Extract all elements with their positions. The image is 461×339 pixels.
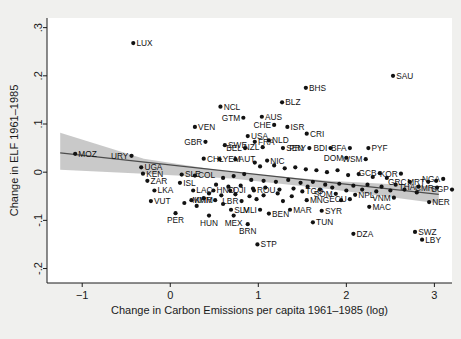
data-point bbox=[290, 194, 294, 198]
point-label: VUT bbox=[154, 196, 171, 206]
data-point bbox=[260, 115, 264, 119]
data-point bbox=[219, 193, 223, 197]
data-point bbox=[145, 179, 149, 183]
scatter-plot-figure: LUXSAUBHSBLZNCLAUSGTMCHEISRVENCRIUSANLDG… bbox=[0, 0, 461, 339]
data-point bbox=[178, 181, 182, 185]
point-label: SAU bbox=[396, 71, 413, 81]
point-label: LKA bbox=[158, 185, 174, 195]
data-point bbox=[211, 188, 215, 192]
data-points-group: LUXSAUBHSBLZNCLAUSGTMCHEISRVENCRIUSANLDG… bbox=[73, 38, 454, 249]
data-point bbox=[311, 220, 315, 224]
data-point bbox=[281, 199, 285, 203]
point-label: STP bbox=[261, 239, 278, 249]
point-label: MAC bbox=[372, 202, 390, 212]
data-point bbox=[272, 163, 276, 167]
data-point bbox=[286, 178, 290, 182]
point-label: ECU bbox=[329, 194, 347, 204]
data-point bbox=[365, 183, 369, 187]
point-label: ZAR bbox=[151, 176, 168, 186]
point-label: SYR bbox=[325, 206, 342, 216]
point-label: URY bbox=[111, 151, 129, 161]
data-point bbox=[191, 188, 195, 192]
point-label: NER bbox=[432, 197, 450, 207]
data-point bbox=[242, 172, 246, 176]
data-point bbox=[229, 208, 233, 212]
data-point bbox=[307, 146, 311, 150]
data-point bbox=[320, 209, 324, 213]
x-tick-label: 3 bbox=[431, 289, 437, 301]
point-label: WSM bbox=[342, 154, 362, 164]
data-point bbox=[239, 184, 243, 188]
x-tick-label: 0 bbox=[167, 289, 173, 301]
point-label: LUX bbox=[136, 38, 153, 48]
data-point bbox=[149, 199, 153, 203]
data-point bbox=[272, 123, 276, 127]
data-point bbox=[357, 172, 361, 176]
data-point bbox=[131, 41, 135, 45]
data-point bbox=[348, 197, 352, 201]
data-point bbox=[129, 154, 133, 158]
point-label: MOZ bbox=[78, 149, 96, 159]
data-point bbox=[314, 168, 318, 172]
data-point bbox=[276, 191, 280, 195]
point-label: CHE bbox=[253, 120, 271, 130]
data-point bbox=[394, 183, 398, 187]
data-point bbox=[392, 196, 396, 200]
point-label: ISR bbox=[291, 122, 305, 132]
data-point bbox=[305, 132, 309, 136]
point-label: THA bbox=[399, 182, 416, 192]
data-point bbox=[180, 172, 184, 176]
data-point bbox=[348, 146, 352, 150]
data-point bbox=[335, 168, 339, 172]
data-point bbox=[306, 185, 310, 189]
data-point bbox=[450, 187, 454, 191]
data-point bbox=[298, 181, 302, 185]
data-point bbox=[232, 174, 236, 178]
data-point bbox=[434, 179, 438, 183]
data-point bbox=[337, 182, 341, 186]
data-point bbox=[261, 193, 265, 197]
data-point bbox=[285, 125, 289, 129]
data-point bbox=[254, 197, 258, 201]
data-point bbox=[255, 242, 259, 246]
data-point bbox=[233, 157, 237, 161]
data-point bbox=[195, 204, 199, 208]
point-label: VEN bbox=[198, 122, 215, 132]
data-point bbox=[291, 186, 295, 190]
chart-screenshot: LUXSAUBHSBLZNCLAUSGTMCHEISRVENCRIUSANLDG… bbox=[0, 0, 461, 339]
data-point bbox=[141, 172, 145, 176]
data-point bbox=[441, 177, 445, 181]
data-point bbox=[374, 189, 378, 193]
data-point bbox=[207, 191, 211, 195]
point-label: DOM bbox=[324, 153, 343, 163]
data-point bbox=[203, 140, 207, 144]
data-point bbox=[402, 187, 406, 191]
data-point bbox=[366, 146, 370, 150]
point-label: PYF bbox=[372, 143, 388, 153]
point-label: TUN bbox=[316, 217, 333, 227]
data-point bbox=[139, 165, 143, 169]
data-point bbox=[217, 157, 221, 161]
point-label: NZL bbox=[244, 142, 260, 152]
y-tick-label: 0 bbox=[32, 169, 44, 175]
data-point bbox=[391, 74, 395, 78]
point-label: CRI bbox=[310, 129, 324, 139]
data-point bbox=[233, 192, 237, 196]
data-point bbox=[261, 179, 265, 183]
data-point bbox=[399, 172, 403, 176]
data-point bbox=[267, 212, 271, 216]
y-tick-label: .1 bbox=[32, 119, 44, 128]
point-label: BRN bbox=[239, 226, 257, 236]
point-label: MNG bbox=[310, 195, 329, 205]
x-tick-label: 1 bbox=[255, 289, 261, 301]
data-point bbox=[251, 186, 255, 190]
data-point bbox=[182, 201, 186, 205]
data-point bbox=[318, 187, 322, 191]
data-point bbox=[427, 200, 431, 204]
data-point bbox=[300, 189, 304, 193]
point-label: BLZ bbox=[285, 97, 300, 107]
point-label: NCL bbox=[224, 102, 241, 112]
data-point bbox=[247, 194, 251, 198]
data-point bbox=[283, 166, 287, 170]
point-label: SGP bbox=[431, 184, 449, 194]
